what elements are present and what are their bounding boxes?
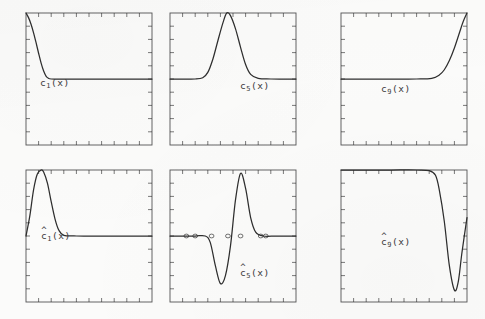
panel-label-c5hat: ^c5(x) xyxy=(240,268,270,280)
panel-label-c9hat: ^c9(x) xyxy=(381,237,411,249)
panel-label-c5: c5(x) xyxy=(240,81,270,93)
label-argument: (x) xyxy=(51,77,70,88)
curve-c5hat xyxy=(170,173,296,284)
plot-panel-c5hat xyxy=(164,164,302,308)
baseline-marker xyxy=(238,234,243,238)
label-argument: (x) xyxy=(251,80,270,91)
plot-panel-c9 xyxy=(335,7,473,151)
figure-canvas: c1(x)c5(x)c9(x)^c1(x)^c5(x)^c9(x) xyxy=(0,0,485,319)
label-argument: (x) xyxy=(52,230,71,241)
curve-c5 xyxy=(170,13,296,80)
hat-accent-icon: ^ xyxy=(240,263,246,272)
label-argument: (x) xyxy=(392,236,411,247)
baseline-marker xyxy=(209,234,214,238)
curve-c9hat xyxy=(341,170,467,291)
label-argument: (x) xyxy=(251,267,270,278)
hat-accent-icon: ^ xyxy=(381,232,387,241)
curve-c1 xyxy=(26,13,152,79)
panel-label-c1: c1(x) xyxy=(40,78,70,90)
hat-accent-icon: ^ xyxy=(41,226,47,235)
curve-c9 xyxy=(341,13,467,79)
plot-panel-c5 xyxy=(164,7,302,151)
baseline-marker xyxy=(226,234,231,238)
panel-label-c9: c9(x) xyxy=(381,84,411,96)
panel-label-c1hat: ^c1(x) xyxy=(41,231,71,243)
label-argument: (x) xyxy=(392,83,411,94)
